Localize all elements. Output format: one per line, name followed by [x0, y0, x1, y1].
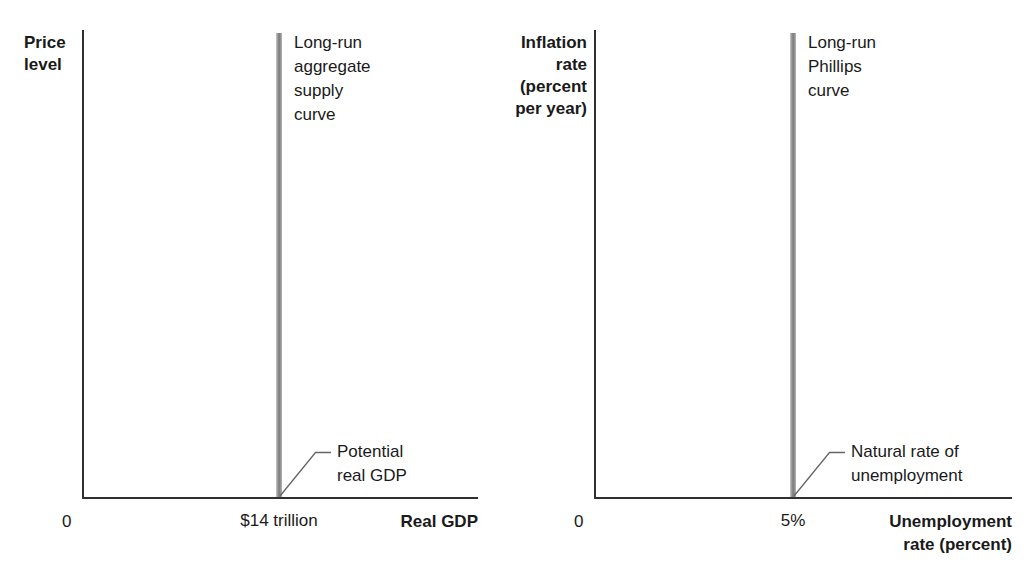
economics-figure: Price level Long-run aggregate supply cu… — [0, 0, 1033, 585]
callout-label-natural-rate-unemployment: Natural rate of unemployment — [851, 440, 1033, 488]
x-axis-label: Real GDP — [338, 510, 478, 533]
x-axis-label: Unemployment rate (percent) — [827, 510, 1012, 556]
panel-long-run-phillips-curve: Inflation rate (percent per year) Long-r… — [517, 0, 1033, 585]
origin-label: 0 — [574, 512, 583, 532]
callout-leader-line — [0, 0, 340, 520]
origin-label: 0 — [62, 512, 71, 532]
panel-long-run-aggregate-supply: Price level Long-run aggregate supply cu… — [0, 0, 516, 585]
callout-label-potential-real-gdp: Potential real GDP — [337, 440, 487, 488]
callout-leader-line — [517, 0, 857, 520]
